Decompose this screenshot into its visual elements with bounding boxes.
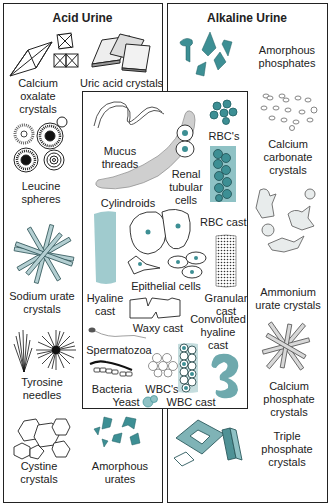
yeast-icon — [142, 394, 158, 408]
triple-phosphate-icon — [172, 414, 252, 480]
calcium-oxalate-icon — [8, 30, 70, 78]
rbc-cast-icon — [208, 146, 238, 202]
label-bacteria: Bacteria — [88, 383, 136, 396]
label-triple-phosphate: Triple phosphate crystals — [256, 430, 318, 469]
rbcs-icon — [210, 100, 238, 124]
wbcs-icon — [148, 352, 178, 378]
hyaline-cast-icon — [90, 210, 118, 286]
calcium-carbonate-icon — [258, 90, 320, 132]
label-spermatozoa: Spermatozoa — [84, 344, 154, 357]
waxy-cast-icon — [128, 296, 184, 320]
label-calcium-phosphate: Calcium phosphate crystals — [256, 380, 322, 419]
label-amorphous-urates: Amorphous urates — [88, 460, 152, 486]
cystine-crystals-icon — [10, 417, 72, 461]
epithelial-cells-icon — [126, 206, 210, 280]
label-amorphous-phosphates: Amorphous phosphates — [252, 44, 322, 70]
label-rbcs: RBC's — [206, 130, 242, 143]
label-renal-tubular-cells: Renal tubular cells — [166, 168, 206, 207]
bacteria-icon — [88, 358, 134, 378]
alkaline-urine-title: Alkaline Urine — [168, 11, 326, 25]
label-hyaline-cast: Hyaline cast — [84, 292, 126, 318]
label-calcium-carbonate: Calcium carbonate crystals — [252, 138, 324, 177]
label-epithelial-cells: Epithelial cells — [128, 280, 204, 293]
label-leucine: Leucine spheres — [8, 180, 74, 206]
ammonium-urate-icon — [254, 186, 326, 256]
label-cystine: Cystine crystals — [8, 460, 70, 486]
tyrosine-needles-icon — [14, 326, 78, 372]
label-tyrosine: Tyrosine needles — [12, 376, 72, 402]
amorphous-urates-icon — [90, 415, 146, 451]
leucine-spheres-icon — [12, 116, 72, 174]
calcium-phosphate-icon — [256, 318, 316, 374]
spermatozoa-icon — [88, 326, 148, 340]
label-ammonium-urate: Ammonium urate crystals — [250, 286, 326, 312]
sodium-urate-icon — [12, 224, 76, 284]
label-yeast: Yeast — [110, 396, 142, 409]
label-sodium-urate: Sodium urate crystals — [6, 290, 78, 316]
amorphous-phosphates-icon — [178, 30, 244, 82]
wbc-cast-icon — [176, 342, 200, 394]
label-mucus-threads: Mucus threads — [98, 145, 142, 171]
granular-cast-icon — [214, 234, 238, 288]
acid-urine-title: Acid Urine — [4, 11, 161, 25]
label-calcium-oxalate: Calcium oxalate crystals — [8, 77, 68, 116]
convoluted-hyaline-cast-icon — [208, 352, 242, 400]
renal-tubular-cells-icon — [174, 124, 196, 158]
label-uric-acid: Uric acid crystals — [80, 77, 162, 90]
uric-acid-icon — [88, 30, 152, 72]
